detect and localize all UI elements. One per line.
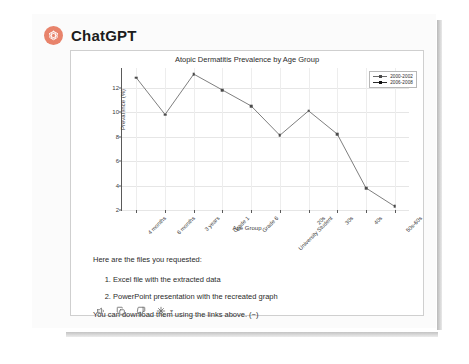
y-axis-tick-label: 12 xyxy=(112,85,119,91)
data-point xyxy=(135,76,138,79)
data-point xyxy=(221,89,224,92)
thumbs-down-icon[interactable] xyxy=(135,305,146,316)
data-point xyxy=(192,73,195,76)
data-point xyxy=(279,134,282,137)
data-point xyxy=(250,105,253,108)
x-axis-tick-mark xyxy=(136,210,137,213)
chat-page: ChatGPT Atopic Dermatitis Prevalence by … xyxy=(32,14,436,328)
openai-logo-icon xyxy=(44,26,63,45)
x-axis-tick-mark xyxy=(309,210,310,213)
x-axis-tick-mark xyxy=(194,210,195,213)
y-axis-tick-label: 10 xyxy=(112,109,119,115)
legend-item: 2006-2008 xyxy=(373,80,413,85)
legend-marker-series-1 xyxy=(373,74,387,79)
plot-area: Prevalence (%) 246810124 months6 months3… xyxy=(121,68,409,211)
list-item: Excel file with the extracted data xyxy=(113,275,403,284)
legend-item: 2000-2002 xyxy=(373,74,413,79)
data-point xyxy=(393,205,396,208)
data-point xyxy=(307,110,310,113)
chart-title: Atopic Dermatitis Prevalence by Age Grou… xyxy=(71,55,423,64)
chart-legend: 2000-2002 2006-2008 xyxy=(369,71,417,88)
chevron-down-icon[interactable]: ▾ xyxy=(170,307,173,314)
x-axis-tick-mark xyxy=(251,210,252,213)
x-axis-tick-mark xyxy=(337,210,338,213)
page-shadow-right xyxy=(437,20,442,330)
data-point xyxy=(164,113,167,116)
x-axis-tick-mark xyxy=(222,210,223,213)
x-axis-tick-mark xyxy=(395,210,396,213)
brand-header: ChatGPT xyxy=(44,26,137,45)
x-axis-tick-mark xyxy=(280,210,281,213)
chart: Atopic Dermatitis Prevalence by Age Grou… xyxy=(71,51,423,247)
page-shadow-bottom xyxy=(66,332,438,337)
legend-label-series-2: 2006-2008 xyxy=(390,80,413,85)
copy-icon[interactable] xyxy=(115,305,126,316)
message-action-toolbar: ▾ xyxy=(91,303,177,318)
x-axis-tick-mark xyxy=(165,210,166,213)
data-point xyxy=(365,187,368,190)
x-axis-tick-mark xyxy=(366,210,367,213)
legend-marker-series-2 xyxy=(373,80,387,85)
brand-name: ChatGPT xyxy=(71,27,137,44)
data-point xyxy=(336,133,339,136)
assistant-message-card: Atopic Dermatitis Prevalence by Age Grou… xyxy=(70,50,424,316)
regenerate-icon[interactable] xyxy=(155,305,166,316)
read-aloud-icon[interactable] xyxy=(95,305,106,316)
photographed-page: ChatGPT Atopic Dermatitis Prevalence by … xyxy=(8,6,461,354)
message-intro: Here are the files you requested: xyxy=(93,255,403,266)
x-axis-label: Age Group xyxy=(71,225,423,231)
list-item: PowerPoint presentation with the recreat… xyxy=(113,292,403,301)
legend-label-series-1: 2000-2002 xyxy=(390,74,413,79)
file-list: Excel file with the extracted data Power… xyxy=(93,275,403,301)
